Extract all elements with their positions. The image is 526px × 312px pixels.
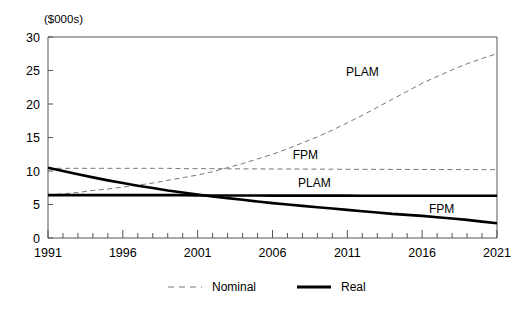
legend-label-1: Real	[341, 280, 366, 294]
x-tick-label: 2006	[259, 246, 287, 260]
series-label-0: PLAM	[346, 65, 379, 79]
y-tick-label: 30	[26, 31, 40, 45]
chart-container: ($000s) 1991199620012006201120162021 051…	[0, 0, 526, 312]
y-tick-label: 0	[33, 232, 40, 246]
y-tick-label: 5	[33, 198, 40, 212]
x-tick-label: 2011	[334, 246, 361, 260]
x-tick-label: 2016	[408, 246, 436, 260]
y-tick-label: 25	[26, 64, 40, 78]
x-tick-label: 2001	[184, 246, 212, 260]
series-label-2: PLAM	[298, 176, 331, 190]
x-tick-label: 2021	[483, 246, 511, 260]
y-tick-label: 15	[26, 131, 40, 145]
y-tick-label: 10	[26, 165, 40, 179]
line-chart: ($000s) 1991199620012006201120162021 051…	[0, 0, 526, 312]
x-tick-label: 1991	[34, 246, 62, 260]
series-label-3: FPM	[429, 202, 454, 216]
y-axis-unit-label: ($000s)	[44, 13, 83, 25]
series-line-2	[48, 195, 497, 196]
chart-background	[0, 0, 526, 312]
x-tick-label: 1996	[109, 246, 137, 260]
legend-label-0: Nominal	[212, 280, 256, 294]
y-tick-label: 20	[26, 98, 40, 112]
series-label-1: FPM	[293, 148, 318, 162]
